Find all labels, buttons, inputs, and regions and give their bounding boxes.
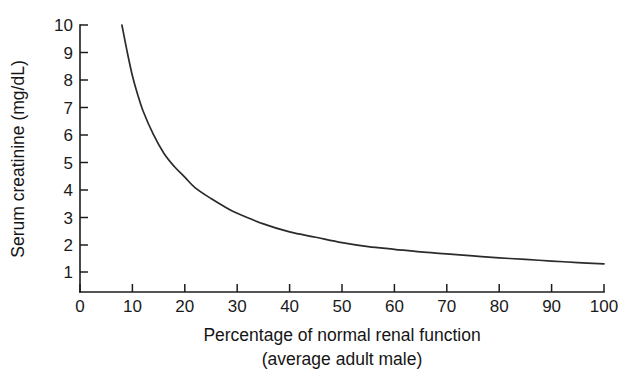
x-tick-label: 10 — [123, 297, 142, 316]
y-tick-label: 6 — [64, 126, 73, 145]
x-tick-label: 50 — [333, 297, 352, 316]
y-tick-label: 3 — [64, 209, 73, 228]
y-tick-label: 4 — [64, 181, 73, 200]
x-axis-sublabel: (average adult male) — [262, 349, 423, 369]
x-tick-label: 0 — [75, 297, 84, 316]
y-tick-label: 2 — [64, 236, 73, 255]
y-tick-label: 9 — [64, 44, 73, 63]
data-series-line — [122, 25, 604, 264]
y-axis-tick-labels: 10 9 8 7 6 5 4 3 2 1 — [54, 16, 73, 282]
x-tick-label: 40 — [280, 297, 299, 316]
x-axis-tick-labels: 0 10 20 30 40 50 60 70 80 90 100 — [75, 297, 618, 316]
x-tick-label: 70 — [437, 297, 456, 316]
x-tick-label: 60 — [385, 297, 404, 316]
y-tick-label: 5 — [64, 154, 73, 173]
x-tick-label: 100 — [590, 297, 618, 316]
x-tick-label: 90 — [542, 297, 561, 316]
y-tick-label: 8 — [64, 71, 73, 90]
y-tick-label: 1 — [64, 263, 73, 282]
x-tick-label: 80 — [490, 297, 509, 316]
x-axis-label: Percentage of normal renal function — [203, 325, 480, 345]
y-tick-label: 10 — [54, 16, 73, 35]
x-axis-ticks — [80, 284, 604, 292]
y-axis-ticks — [80, 25, 88, 272]
chart-plot-area: Serum creatinine (mg/dL) 10 9 8 7 6 5 4 — [0, 0, 644, 387]
x-tick-label: 20 — [175, 297, 194, 316]
y-axis-label: Serum creatinine (mg/dL) — [8, 60, 28, 257]
y-tick-label: 7 — [64, 99, 73, 118]
chart-figure: Serum creatinine (mg/dL) 10 9 8 7 6 5 4 — [0, 0, 644, 387]
x-tick-label: 30 — [228, 297, 247, 316]
